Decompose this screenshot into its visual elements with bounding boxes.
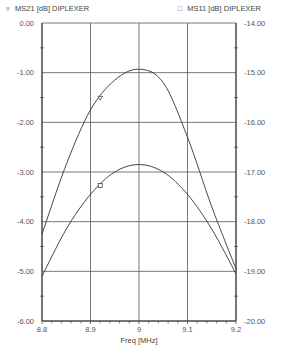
y-tick-right: -16.00 — [244, 118, 265, 127]
y-tick-left: -4.00 — [17, 217, 34, 226]
x-tick: 9 — [137, 325, 141, 334]
y-tick-right: -19.00 — [244, 267, 265, 276]
x-tick: 9.2 — [231, 325, 241, 334]
y-tick-left: 0.00 — [19, 19, 34, 28]
y-tick-right: -20.00 — [244, 317, 265, 326]
x-axis-title: Freq [MHz] — [120, 336, 157, 345]
y-tick-left: -3.00 — [17, 168, 34, 177]
y-tick-right: -14.00 — [244, 19, 265, 28]
chart-plot: 0.00-14.00-1.00-15.00-2.00-16.00-3.00-17… — [0, 0, 285, 362]
y-tick-right: -18.00 — [244, 217, 265, 226]
y-tick-left: -5.00 — [17, 267, 34, 276]
square-marker-icon — [98, 183, 102, 187]
y-tick-left: -6.00 — [17, 317, 34, 326]
y-tick-left: -1.00 — [17, 68, 34, 77]
triangle-marker-icon — [98, 96, 103, 100]
x-tick: 8.8 — [37, 325, 47, 334]
y-tick-left: -2.00 — [17, 118, 34, 127]
y-tick-right: -15.00 — [244, 68, 265, 77]
x-tick: 9.1 — [182, 325, 192, 334]
x-tick: 8.9 — [85, 325, 95, 334]
y-tick-right: -17.00 — [244, 168, 265, 177]
